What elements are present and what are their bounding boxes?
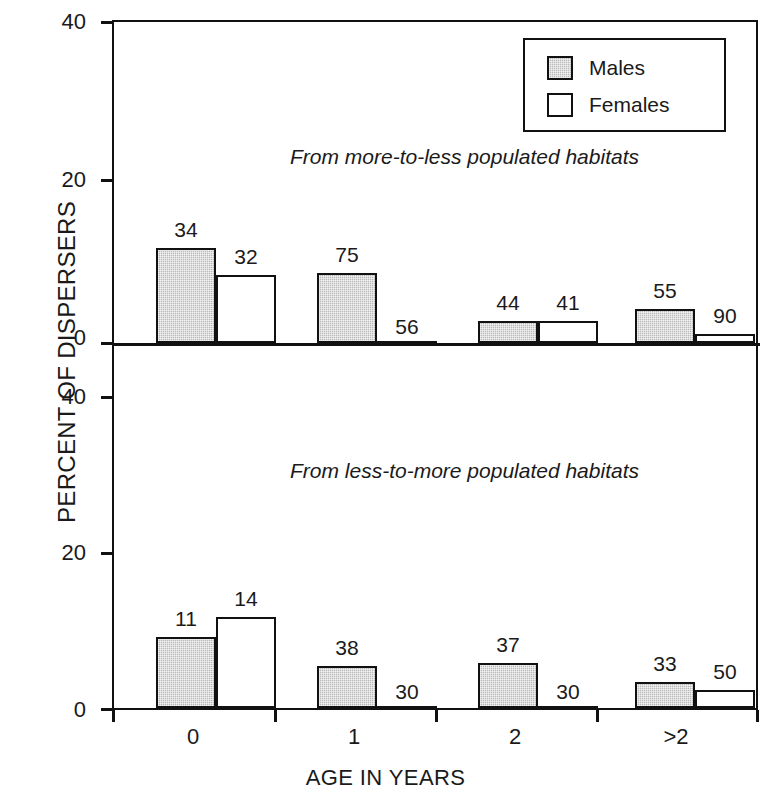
bar-male-3	[635, 682, 695, 708]
x-tick-label-gt2: >2	[646, 726, 706, 748]
bar-male-0	[156, 637, 216, 708]
bar-male-2	[478, 663, 538, 708]
legend-item-males: Males	[547, 49, 724, 86]
lower-panel-plot-area: 11 14 38 30 37 30 33 50	[114, 346, 758, 708]
bar-female-2	[538, 321, 598, 343]
x-tick-label-0: 0	[163, 726, 223, 748]
bar-male-3	[635, 309, 695, 343]
legend-label-females: Females	[589, 94, 670, 115]
bar-female-2	[538, 706, 598, 708]
bar-label: 55	[635, 280, 695, 301]
legend: Males Females	[523, 38, 726, 132]
bar-male-0	[156, 248, 216, 343]
bar-label: 30	[377, 681, 437, 702]
x-tick-label-1: 1	[324, 726, 384, 748]
x-tick-mark-2	[435, 710, 438, 722]
y-tick-label-top-20: 20	[40, 169, 86, 191]
bar-female-1	[377, 706, 437, 708]
legend-item-females: Females	[547, 86, 724, 123]
bar-label: 75	[317, 244, 377, 265]
x-tick-mark-right-edge	[756, 710, 759, 722]
bar-label: 56	[377, 316, 437, 337]
x-tick-mark-left-edge	[112, 710, 115, 722]
bar-label: 37	[478, 634, 538, 655]
bar-female-0	[216, 617, 276, 708]
bar-label: 41	[538, 292, 598, 313]
x-tick-label-2: 2	[485, 726, 545, 748]
x-tick-mark-3	[596, 710, 599, 722]
legend-label-males: Males	[589, 57, 645, 78]
x-axis-title: AGE IN YEARS	[0, 765, 771, 791]
y-tick-mark-top-20	[101, 179, 113, 182]
y-tick-label-bot-20: 20	[40, 542, 86, 564]
bar-male-2	[478, 321, 538, 343]
bar-female-3	[695, 334, 755, 343]
bar-female-3	[695, 690, 755, 708]
y-tick-label-top-0: 0	[40, 327, 86, 349]
y-tick-mark-bot-20	[101, 552, 113, 555]
y-tick-label-top-40: 40	[40, 11, 86, 33]
bar-label: 30	[538, 681, 598, 702]
y-tick-label-bot-0: 0	[40, 699, 86, 721]
figure-chart: PERCENT OF DISPERSERS 40 20 0 From more-…	[0, 0, 771, 797]
x-tick-mark-1	[274, 710, 277, 722]
bar-label: 11	[156, 608, 216, 629]
bar-label: 38	[317, 637, 377, 658]
bar-label: 44	[478, 292, 538, 313]
bar-label: 90	[695, 305, 755, 326]
bar-male-1	[317, 273, 377, 343]
bar-label: 14	[216, 588, 276, 609]
legend-swatch-females-icon	[547, 93, 573, 117]
legend-swatch-males-icon	[547, 56, 573, 80]
bar-male-1	[317, 666, 377, 708]
bar-label: 50	[695, 661, 755, 682]
y-tick-mark-top-40	[101, 21, 113, 24]
bar-label: 34	[156, 219, 216, 240]
y-axis-title: PERCENT OF DISPERSERS	[53, 177, 81, 547]
bar-label: 33	[635, 653, 695, 674]
bar-female-0	[216, 275, 276, 343]
y-tick-mark-bot-40	[101, 396, 113, 399]
bar-label: 32	[216, 246, 276, 267]
y-tick-label-bot-40: 40	[40, 386, 86, 408]
